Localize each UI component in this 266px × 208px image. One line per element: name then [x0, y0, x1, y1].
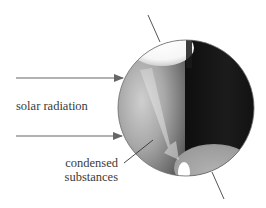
solar-radiation-label: solar radiation: [16, 99, 88, 113]
condensed-substances-label: condensed substances: [65, 156, 118, 184]
polar-cap-top-white: [130, 30, 194, 66]
rotation-axis-top: [148, 15, 160, 42]
condensed-label-line1: condensed: [65, 156, 118, 170]
condensed-label-line2: substances: [65, 170, 118, 184]
bright-crescent: [178, 162, 190, 182]
planet-sphere: [118, 30, 255, 192]
rotation-axis-bottom: [212, 172, 224, 199]
